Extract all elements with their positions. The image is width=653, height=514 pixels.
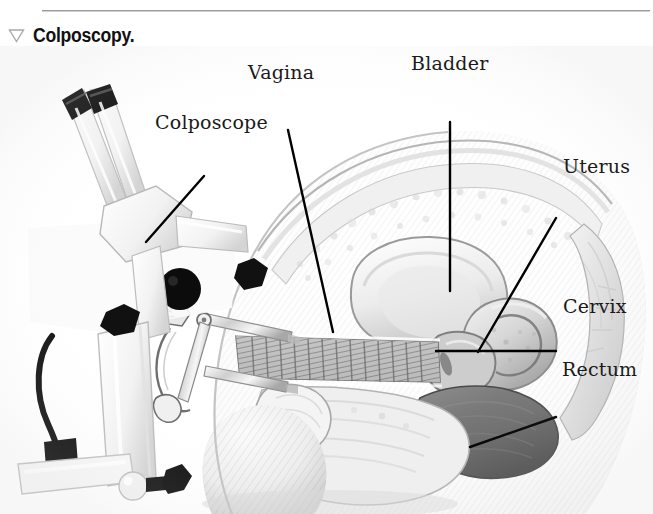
illustration-canvas	[0, 46, 653, 514]
anatomical-illustration-svg	[0, 46, 653, 514]
figure-panel: Colposcopy.	[0, 0, 653, 514]
annotation-label-vagina: Vagina	[248, 61, 314, 83]
page-title: Colposcopy.	[33, 24, 134, 47]
annotation-label-rectum: Rectum	[562, 358, 637, 380]
header-divider	[42, 10, 650, 12]
annotation-label-cervix: Cervix	[563, 295, 627, 317]
triangle-down-icon[interactable]	[8, 28, 25, 43]
annotation-label-bladder: Bladder	[411, 52, 488, 74]
annotation-label-uterus: Uterus	[563, 155, 630, 177]
figure-caption-row: Colposcopy.	[8, 21, 148, 49]
artist-signature	[62, 503, 653, 514]
annotation-label-colposcope: Colposcope	[155, 111, 268, 133]
illustration-vignette	[0, 46, 653, 514]
